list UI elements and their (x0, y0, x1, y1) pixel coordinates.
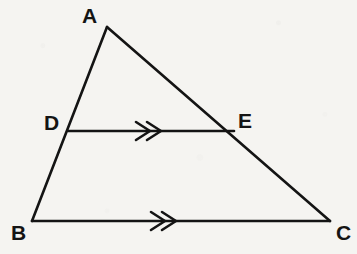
point-label-e: E (238, 110, 252, 131)
point-label-a: A (82, 5, 97, 26)
point-label-b: B (11, 222, 26, 243)
point-label-c: C (336, 222, 351, 243)
diagram-canvas: A B C D E (0, 0, 357, 254)
point-label-d: D (44, 112, 59, 133)
